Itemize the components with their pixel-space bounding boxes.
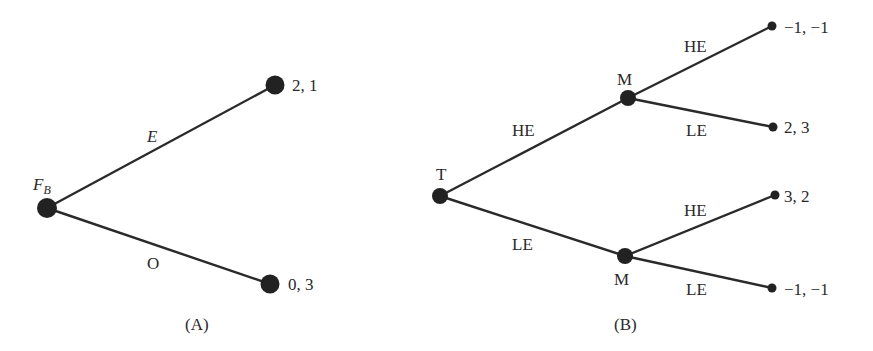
edge-label-le: LE	[512, 235, 533, 254]
payoff-label: −1, −1	[784, 280, 829, 299]
root-label: FB	[32, 175, 51, 197]
leaf-node	[771, 191, 780, 200]
caption-a: (A)	[185, 315, 209, 334]
edge-label-e: E	[146, 127, 158, 146]
edge-label-he: HE	[512, 121, 535, 140]
edge-label-le: LE	[686, 280, 707, 299]
payoff-label: −1, −1	[784, 18, 829, 37]
root-node-t	[432, 188, 448, 204]
decision-node-m	[617, 248, 633, 264]
panel-a: FB E O 2, 1 0, 3 (A)	[32, 76, 318, 335]
payoff-label: 2, 1	[292, 76, 318, 95]
leaf-node	[266, 76, 285, 95]
panel-b: T M M HE LE HE LE HE LE −1, −1 2, 3 3, 2…	[432, 18, 829, 334]
payoff-label: 2, 3	[784, 118, 810, 137]
leaf-node	[261, 275, 280, 294]
edge-label-he: HE	[684, 201, 707, 220]
caption-b: (B)	[614, 315, 637, 334]
edge-label-he: HE	[684, 37, 707, 56]
edge-he	[440, 98, 628, 196]
edge-e	[47, 85, 275, 208]
leaf-node	[768, 22, 777, 31]
node-label-m: M	[614, 270, 629, 289]
root-node-fb	[37, 198, 57, 218]
payoff-label: 3, 2	[784, 187, 810, 206]
edge-label-o: O	[147, 254, 159, 273]
node-label-m: M	[617, 70, 632, 89]
payoff-label: 0, 3	[288, 275, 314, 294]
game-trees-figure: FB E O 2, 1 0, 3 (A) T M M HE LE HE LE H…	[0, 0, 873, 351]
decision-node-m	[620, 90, 636, 106]
root-label: T	[436, 165, 447, 184]
edge-label-le: LE	[686, 121, 707, 140]
leaf-node	[768, 284, 777, 293]
leaf-node	[769, 123, 778, 132]
